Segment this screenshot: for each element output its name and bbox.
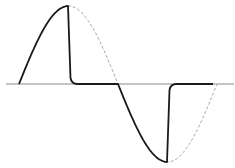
- waveform-diagram: [0, 0, 235, 168]
